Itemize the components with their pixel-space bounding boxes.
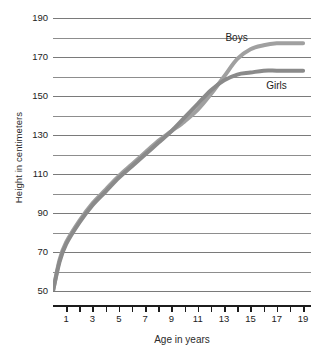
x-axis-tick xyxy=(264,305,266,312)
y-axis-tick-label: 150 xyxy=(22,91,48,101)
series-curves xyxy=(53,18,311,291)
x-axis-tick xyxy=(277,305,279,312)
x-axis-tick-label: 7 xyxy=(135,314,155,324)
x-axis-tick xyxy=(211,305,213,312)
x-axis-tick xyxy=(237,305,239,312)
x-axis-tick xyxy=(171,305,173,312)
x-axis-tick xyxy=(224,305,226,312)
x-axis-tick-label: 9 xyxy=(161,314,181,324)
curve-girls xyxy=(53,71,303,291)
y-axis-tick-label: 50 xyxy=(22,286,48,296)
x-axis-tick xyxy=(290,305,292,312)
y-axis-tick-label: 170 xyxy=(22,52,48,62)
x-axis-tick-label: 5 xyxy=(109,314,129,324)
x-axis-tick-labels: 135791113151719 xyxy=(53,314,311,328)
x-axis-tick xyxy=(158,305,160,312)
x-axis-title: Age in years xyxy=(53,334,311,345)
y-axis-tick-label: 90 xyxy=(22,208,48,218)
growth-chart: Height in centimeters 190170150130110907… xyxy=(0,0,317,357)
x-axis-tick-label: 3 xyxy=(82,314,102,324)
x-axis-tick xyxy=(119,305,121,312)
x-axis-tick xyxy=(145,305,147,312)
x-axis-tick xyxy=(185,305,187,312)
x-axis-tick-label: 11 xyxy=(188,314,208,324)
x-axis-tick-label: 19 xyxy=(293,314,313,324)
y-axis-tick-label: 130 xyxy=(22,130,48,140)
x-axis-tick-label: 17 xyxy=(267,314,287,324)
x-axis-tick xyxy=(250,305,252,312)
y-axis-tick-labels: 190170150130110907050 xyxy=(22,0,48,357)
x-axis-tick xyxy=(106,305,108,312)
x-axis-tick xyxy=(198,305,200,312)
x-axis-tick-label: 15 xyxy=(240,314,260,324)
gridline xyxy=(53,291,311,292)
x-axis-tick xyxy=(66,305,68,312)
x-axis-tick xyxy=(303,305,305,312)
x-axis-ticks xyxy=(53,305,311,313)
y-axis-tick-label: 70 xyxy=(22,247,48,257)
x-axis-tick xyxy=(92,305,94,312)
series-label-boys: Boys xyxy=(225,32,247,43)
plot-area: BoysGirls xyxy=(53,18,311,291)
y-axis-tick-label: 110 xyxy=(22,169,48,179)
x-axis-tick xyxy=(132,305,134,312)
x-axis-tick-label: 13 xyxy=(214,314,234,324)
y-axis-tick-label: 190 xyxy=(22,13,48,23)
x-axis-tick xyxy=(79,305,81,312)
series-label-girls: Girls xyxy=(266,80,287,91)
x-axis-tick-label: 1 xyxy=(56,314,76,324)
